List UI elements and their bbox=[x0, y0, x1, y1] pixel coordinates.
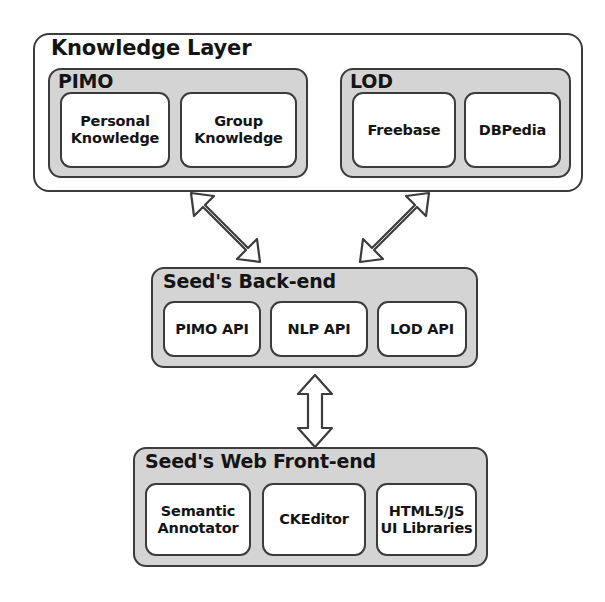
card-personal-knowledge: Personal Knowledge bbox=[60, 92, 170, 168]
frontend-group-title: Seed's Web Front-end bbox=[145, 450, 376, 472]
card-ui-libraries: HTML5/JS UI Libraries bbox=[376, 483, 477, 556]
card-ui-libraries-line1: HTML5/JS bbox=[389, 503, 464, 520]
card-ckeditor: CKEditor bbox=[262, 483, 366, 556]
architecture-diagram: Knowledge Layer PIMO Personal Knowledge … bbox=[0, 0, 605, 602]
double-headed-arrow-vertical-icon bbox=[286, 372, 344, 450]
card-personal-knowledge-line2: Knowledge bbox=[71, 130, 160, 147]
card-pimo-api: PIMO API bbox=[163, 301, 261, 357]
card-semantic-annotator: Semantic Annotator bbox=[145, 483, 251, 556]
card-pimo-api-line1: PIMO API bbox=[175, 321, 248, 338]
double-headed-arrow-diagonal-icon bbox=[354, 190, 434, 270]
card-ckeditor-line1: CKEditor bbox=[279, 511, 349, 528]
card-group-knowledge-line2: Knowledge bbox=[194, 130, 283, 147]
card-dbpedia-line1: DBPedia bbox=[479, 122, 546, 139]
card-freebase-line1: Freebase bbox=[368, 122, 441, 139]
card-semantic-annotator-line1: Semantic bbox=[161, 503, 235, 520]
card-ui-libraries-line2: UI Libraries bbox=[381, 520, 473, 537]
lod-group-title: LOD bbox=[350, 70, 393, 92]
card-group-knowledge-line1: Group bbox=[214, 113, 263, 130]
backend-group-title: Seed's Back-end bbox=[163, 270, 336, 292]
card-personal-knowledge-line1: Personal bbox=[80, 113, 150, 130]
double-headed-arrow-diagonal-icon bbox=[186, 190, 266, 270]
knowledge-layer-title: Knowledge Layer bbox=[51, 36, 251, 60]
card-nlp-api: NLP API bbox=[270, 301, 368, 357]
card-freebase: Freebase bbox=[352, 92, 456, 168]
card-semantic-annotator-line2: Annotator bbox=[158, 520, 239, 537]
card-lod-api: LOD API bbox=[377, 301, 467, 357]
card-dbpedia: DBPedia bbox=[464, 92, 561, 168]
pimo-group-title: PIMO bbox=[58, 70, 113, 92]
card-nlp-api-line1: NLP API bbox=[288, 321, 351, 338]
card-group-knowledge: Group Knowledge bbox=[180, 92, 297, 168]
card-lod-api-line1: LOD API bbox=[390, 321, 454, 338]
